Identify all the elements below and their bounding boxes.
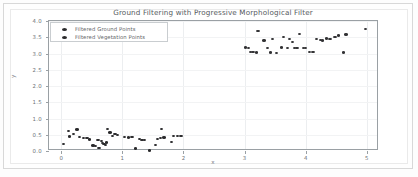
scatter-point bbox=[291, 41, 294, 43]
scatter-point bbox=[170, 141, 173, 143]
scatter-point bbox=[148, 149, 151, 151]
y-tick-label: 1.0 bbox=[18, 116, 42, 122]
x-tick-label: 0 bbox=[51, 155, 71, 161]
chart-legend: Filtered Ground Points Filtered Vegetati… bbox=[50, 22, 168, 42]
x-tick-label: 3 bbox=[235, 155, 255, 161]
legend-label-vegetation: Filtered Vegetation Points bbox=[75, 34, 145, 40]
scatter-point bbox=[271, 38, 274, 40]
y-tick-label: 2.0 bbox=[18, 83, 42, 89]
scatter-point bbox=[342, 51, 345, 53]
y-tick-label: 0.5 bbox=[18, 132, 42, 138]
scatter-point bbox=[266, 47, 269, 49]
scatter-point bbox=[67, 130, 70, 132]
scatter-point bbox=[104, 144, 107, 146]
y-tick-label: 4.0 bbox=[18, 18, 42, 24]
scatter-point bbox=[256, 30, 259, 32]
scatter-point bbox=[275, 52, 278, 54]
scatter-point bbox=[143, 139, 146, 141]
scatter-point bbox=[280, 46, 283, 48]
scatter-point bbox=[75, 128, 78, 130]
figure-canvas: Ground Filtering with Progressive Morpho… bbox=[0, 0, 418, 177]
x-tick-mark bbox=[61, 151, 62, 154]
scatter-point bbox=[247, 47, 250, 49]
y-tick-label: 2.5 bbox=[18, 67, 42, 73]
vegetation-marker-icon bbox=[62, 36, 67, 39]
gridline-horizontal bbox=[49, 135, 377, 136]
gridline-horizontal bbox=[49, 102, 377, 103]
scatter-point bbox=[295, 47, 298, 49]
scatter-point bbox=[298, 33, 301, 35]
gridline-vertical bbox=[183, 21, 184, 149]
scatter-point bbox=[97, 147, 100, 149]
gridline-horizontal bbox=[49, 54, 377, 55]
scatter-point bbox=[108, 131, 111, 133]
scatter-point bbox=[123, 136, 126, 138]
x-tick-mark bbox=[245, 151, 246, 154]
legend-item-ground: Filtered Ground Points bbox=[54, 25, 164, 33]
y-tick-mark bbox=[46, 135, 49, 136]
scatter-point bbox=[172, 135, 175, 137]
y-tick-mark bbox=[46, 21, 49, 22]
scatter-point bbox=[106, 128, 109, 130]
y-tick-label: 1.5 bbox=[18, 99, 42, 105]
scatter-point bbox=[116, 134, 119, 136]
scatter-point bbox=[344, 33, 347, 35]
scatter-point bbox=[88, 138, 91, 140]
y-tick-mark bbox=[46, 119, 49, 120]
gridline-horizontal bbox=[49, 119, 377, 120]
scatter-point bbox=[262, 39, 265, 41]
y-tick-label: 0.0 bbox=[18, 148, 42, 154]
scatter-point bbox=[154, 144, 157, 146]
scatter-point bbox=[269, 51, 272, 53]
scatter-point bbox=[78, 136, 81, 138]
ground-marker-icon bbox=[62, 28, 67, 31]
scatter-point bbox=[288, 38, 291, 40]
legend-item-vegetation: Filtered Vegetation Points bbox=[54, 33, 164, 41]
scatter-point bbox=[328, 38, 331, 40]
scatter-point bbox=[160, 128, 163, 130]
scatter-point bbox=[179, 135, 182, 137]
gridline-horizontal bbox=[49, 86, 377, 87]
chart-title: Ground Filtering with Progressive Morpho… bbox=[48, 8, 378, 17]
plot-axes: 0.00.51.01.52.02.53.03.54.0 012345 Filte… bbox=[48, 20, 378, 150]
scatter-point bbox=[62, 143, 65, 145]
gridline-vertical bbox=[245, 21, 246, 149]
legend-label-ground: Filtered Ground Points bbox=[75, 26, 136, 32]
gridline-vertical bbox=[367, 21, 368, 149]
x-tick-mark bbox=[183, 151, 184, 154]
x-tick-label: 2 bbox=[173, 155, 193, 161]
y-tick-mark bbox=[46, 70, 49, 71]
gridline-horizontal bbox=[49, 70, 377, 71]
scatter-point bbox=[315, 38, 318, 40]
y-tick-label: 3.5 bbox=[18, 34, 42, 40]
scatter-point bbox=[134, 147, 137, 149]
gridline-vertical bbox=[306, 21, 307, 149]
scatter-point bbox=[311, 51, 314, 53]
x-tick-mark bbox=[367, 151, 368, 154]
x-tick-mark bbox=[122, 151, 123, 154]
y-axis-label: y bbox=[10, 75, 16, 78]
scatter-point bbox=[130, 136, 133, 138]
y-tick-mark bbox=[46, 151, 49, 152]
y-tick-label: 3.0 bbox=[18, 51, 42, 57]
x-tick-label: 4 bbox=[296, 155, 316, 161]
y-tick-mark bbox=[46, 86, 49, 87]
y-tick-mark bbox=[46, 102, 49, 103]
y-tick-mark bbox=[46, 54, 49, 55]
x-tick-label: 5 bbox=[357, 155, 377, 161]
scatter-point bbox=[162, 136, 165, 138]
scatter-point bbox=[286, 47, 289, 49]
x-tick-label: 1 bbox=[112, 155, 132, 161]
scatter-point bbox=[321, 39, 324, 41]
x-tick-mark bbox=[306, 151, 307, 154]
scatter-point bbox=[105, 141, 108, 143]
x-axis-label: x bbox=[48, 159, 378, 165]
y-tick-mark bbox=[46, 37, 49, 38]
